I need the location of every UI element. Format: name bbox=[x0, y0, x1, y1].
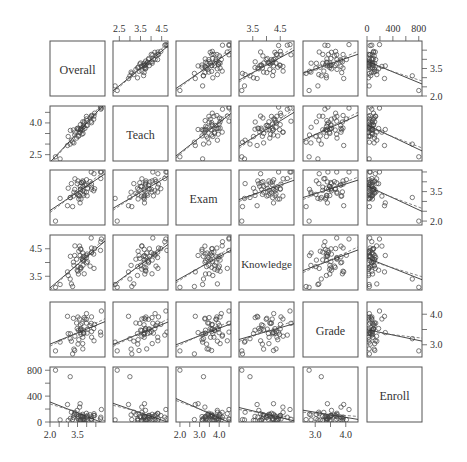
axis-tick-label: 4.0 bbox=[340, 429, 353, 440]
axis-tick-label: 3.5 bbox=[430, 63, 443, 74]
diagonal-label-panel: Overall bbox=[50, 41, 105, 96]
axis-tick-label: 3.5 bbox=[71, 429, 84, 440]
axis-tick-label: 400 bbox=[27, 391, 42, 402]
scatter-panel bbox=[50, 235, 105, 290]
scatter-panel bbox=[50, 101, 105, 165]
axis-tick-label: 3.5 bbox=[134, 23, 147, 34]
variable-label: Grade bbox=[316, 324, 345, 338]
axis-tick-label: 4.5 bbox=[155, 23, 168, 34]
variable-label: Exam bbox=[190, 192, 219, 206]
diagonal-label-panel: Teach bbox=[113, 106, 168, 161]
axis-tick-label: 4.0 bbox=[213, 429, 226, 440]
scatter-panel bbox=[366, 302, 422, 357]
scatter-panel bbox=[366, 235, 422, 290]
axis-tick-label: 0 bbox=[37, 417, 42, 428]
axis-tick-label: 800 bbox=[411, 23, 426, 34]
axis-tick-label: 2.0 bbox=[44, 429, 57, 440]
diagonal-label-panel: Grade bbox=[303, 302, 358, 357]
axis-tick-label: 800 bbox=[27, 365, 42, 376]
axis-tick-label: 4.0 bbox=[430, 309, 443, 320]
axis-tick-label: 400 bbox=[385, 23, 400, 34]
variable-label: Overall bbox=[60, 63, 97, 77]
scatterplot-matrix: OverallTeachExamKnowledgeGradeEnroll2.53… bbox=[0, 0, 467, 462]
scatter-panel bbox=[176, 302, 231, 357]
axis-tick-label: 0 bbox=[365, 23, 370, 34]
scatter-panel bbox=[239, 41, 294, 96]
scatter-panel bbox=[239, 105, 294, 161]
axis-tick-label: 2.0 bbox=[430, 91, 443, 102]
scatter-panel bbox=[303, 170, 358, 225]
scatter-panel bbox=[113, 302, 169, 357]
axis-tick-label: 2.5 bbox=[30, 149, 43, 160]
variable-label: Knowledge bbox=[241, 258, 292, 270]
axis-tick-label: 3.0 bbox=[430, 339, 443, 350]
axis-tick-label: 4.5 bbox=[30, 243, 43, 254]
axis-tick-label: 3.5 bbox=[247, 23, 260, 34]
scatter-panel bbox=[303, 105, 358, 161]
scatter-panel bbox=[176, 235, 231, 290]
scatter-panel bbox=[113, 41, 169, 96]
diagonal-label-panel: Enroll bbox=[367, 367, 422, 422]
scatter-panel bbox=[176, 367, 231, 423]
scatter-panel bbox=[176, 41, 231, 96]
scatter-panel bbox=[239, 302, 294, 357]
diagonal-label-panel: Exam bbox=[176, 170, 231, 225]
scatter-panel bbox=[366, 41, 422, 96]
scatter-panel bbox=[50, 302, 105, 357]
scatter-panel bbox=[366, 105, 422, 161]
axis-tick-label: 4.0 bbox=[30, 117, 43, 128]
scatter-panel bbox=[239, 170, 294, 225]
axis-tick-label: 2.5 bbox=[113, 23, 126, 34]
variable-label: Enroll bbox=[380, 389, 411, 403]
scatter-panel bbox=[113, 367, 169, 423]
scatter-panel bbox=[50, 367, 105, 424]
axis-tick-label: 2.0 bbox=[430, 216, 443, 227]
variable-label: Teach bbox=[126, 128, 154, 142]
diagonal-label-panel: Knowledge bbox=[239, 235, 294, 290]
axis-tick-label: 3.0 bbox=[309, 429, 322, 440]
scatter-panel bbox=[303, 235, 358, 290]
axis-tick-label: 3.5 bbox=[430, 186, 443, 197]
axis-tick-label: 4.5 bbox=[274, 23, 287, 34]
scatter-panel bbox=[176, 105, 231, 161]
scatter-panel bbox=[303, 41, 358, 96]
axis-tick-label: 3.0 bbox=[193, 429, 206, 440]
scatter-panel bbox=[366, 170, 422, 225]
axis-tick-label: 3.5 bbox=[30, 271, 43, 282]
scatter-panel bbox=[50, 170, 105, 225]
scatter-panel bbox=[113, 170, 169, 225]
scatter-panel bbox=[113, 235, 169, 290]
scatter-panel bbox=[239, 367, 294, 423]
scatter-panel bbox=[303, 367, 358, 423]
axis-tick-label: 2.0 bbox=[174, 429, 187, 440]
